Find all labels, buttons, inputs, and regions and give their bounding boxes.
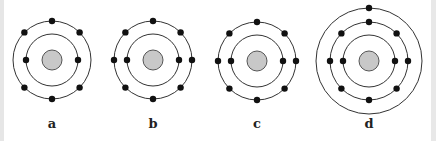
electron [393,30,399,36]
atom-d [316,5,422,114]
electron [366,19,372,25]
nucleus [42,50,62,70]
electron [280,58,286,64]
atom-label-d: d [359,116,379,131]
nucleus [247,51,267,71]
electron [228,58,234,64]
atom-label-a: a [42,116,62,131]
electron [124,57,130,63]
electron [49,18,55,24]
electron [76,29,82,35]
electron [327,58,333,64]
electron [177,84,183,90]
electron [254,19,260,25]
electron [281,85,287,91]
electron [338,85,344,91]
electron [76,84,82,90]
electron [176,57,182,63]
electron [189,57,195,63]
electron [75,57,81,63]
atom-c [215,19,299,103]
atom-label-b: b [143,116,163,131]
electron [392,58,398,64]
electron [293,58,299,64]
atom-b [111,18,195,102]
electron [150,18,156,24]
electron [21,84,27,90]
electron [150,96,156,102]
electron [177,29,183,35]
electron [49,96,55,102]
electron [21,29,27,35]
electron [122,29,128,35]
electron [393,85,399,91]
atom-label-c: c [247,116,267,131]
electron [226,85,232,91]
electron [254,97,260,103]
electron [366,5,372,11]
nucleus [359,51,379,71]
electron [111,57,117,63]
nucleus [143,50,163,70]
electron [226,30,232,36]
electron [405,58,411,64]
atom-a [13,18,91,102]
electron [366,97,372,103]
electron [338,30,344,36]
electron [122,84,128,90]
electron [215,58,221,64]
electron [23,57,29,63]
electron [340,58,346,64]
electron [281,30,287,36]
